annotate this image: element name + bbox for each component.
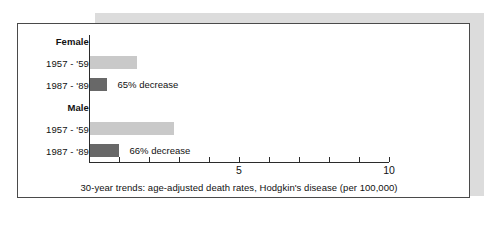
chart-caption: 30-year trends: age-adjusted death rates… bbox=[81, 182, 398, 193]
x-axis-tick bbox=[149, 157, 150, 162]
x-axis-line bbox=[89, 162, 389, 163]
x-axis-tick bbox=[389, 157, 390, 162]
figure-frame: Female1957 - '591987 - '89Male1957 - '59… bbox=[17, 23, 470, 198]
category-label: 1957 - '59 bbox=[17, 58, 89, 69]
x-axis-tick bbox=[329, 157, 330, 162]
x-axis-tick bbox=[239, 157, 240, 162]
bar-female-recent bbox=[90, 78, 107, 91]
category-label: 1987 - '89 bbox=[17, 80, 89, 91]
chart-plot-area: Female1957 - '591987 - '89Male1957 - '59… bbox=[18, 24, 469, 197]
x-axis-tick-label: 10 bbox=[383, 164, 395, 176]
group-label-female: Female bbox=[17, 36, 89, 47]
bar-male-recent bbox=[90, 144, 119, 157]
x-axis-tick bbox=[269, 157, 270, 162]
x-axis-tick bbox=[299, 157, 300, 162]
x-axis-tick bbox=[209, 157, 210, 162]
group-label-male: Male bbox=[17, 102, 89, 113]
y-axis-line bbox=[89, 35, 90, 162]
bar-annotation: 65% decrease bbox=[118, 79, 179, 90]
category-label: 1957 - '59 bbox=[17, 124, 89, 135]
bar-female-earlier bbox=[90, 56, 137, 69]
bar-annotation: 66% decrease bbox=[130, 145, 191, 156]
x-axis-tick bbox=[179, 157, 180, 162]
x-axis-tick-label: 5 bbox=[236, 164, 242, 176]
category-label: 1987 - '89 bbox=[17, 146, 89, 157]
bar-male-earlier bbox=[90, 122, 174, 135]
category-labels-column: Female1957 - '591987 - '89Male1957 - '59… bbox=[18, 24, 89, 199]
x-axis-tick bbox=[119, 157, 120, 162]
x-axis-tick bbox=[359, 157, 360, 162]
